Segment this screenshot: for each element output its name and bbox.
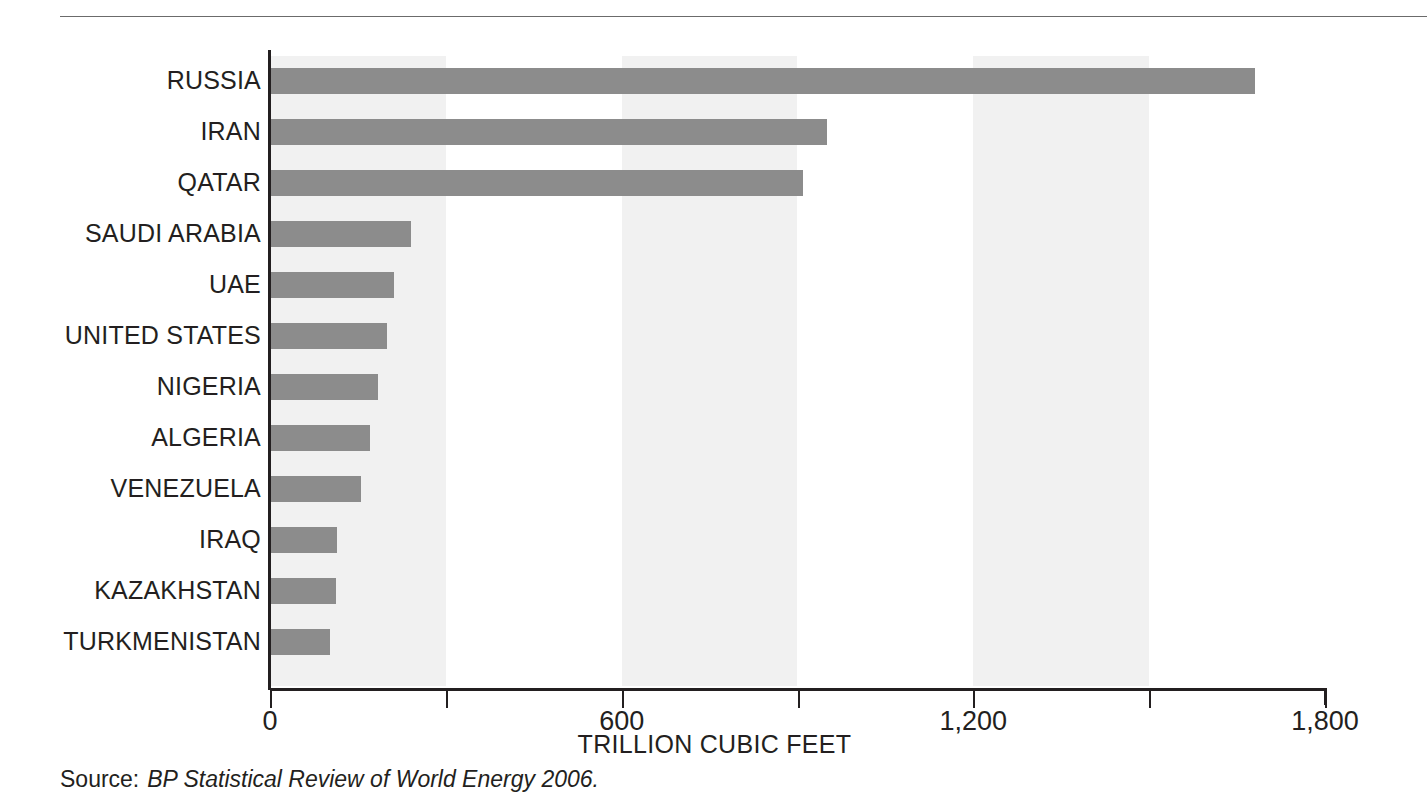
bar xyxy=(270,578,336,604)
bar xyxy=(270,68,1255,94)
bar xyxy=(270,374,378,400)
background-band xyxy=(622,56,798,686)
bar xyxy=(270,221,411,247)
bar xyxy=(270,476,361,502)
category-label: VENEZUELA xyxy=(0,474,261,503)
bar xyxy=(270,272,394,298)
category-label: NIGERIA xyxy=(0,372,261,401)
y-axis-line xyxy=(268,50,271,690)
bar xyxy=(270,119,827,145)
category-label: IRAQ xyxy=(0,525,261,554)
x-axis-title: TRILLION CUBIC FEET xyxy=(0,730,1427,759)
category-label: KAZAKHSTAN xyxy=(0,576,261,605)
category-label: ALGERIA xyxy=(0,423,261,452)
bar xyxy=(270,170,803,196)
category-label: RUSSIA xyxy=(0,66,261,95)
x-axis-minor-tick xyxy=(446,691,448,708)
background-band xyxy=(973,56,1149,686)
bar xyxy=(270,425,370,451)
source-note: Source:BP Statistical Review of World En… xyxy=(60,766,599,793)
source-label: Source: xyxy=(60,766,139,792)
category-label: UAE xyxy=(0,270,261,299)
category-label: UNITED STATES xyxy=(0,321,261,350)
bar xyxy=(270,629,330,655)
source-citation: BP Statistical Review of World Energy 20… xyxy=(147,766,599,792)
x-axis-title-text: TRILLION CUBIC FEET xyxy=(578,730,852,758)
x-axis-minor-tick xyxy=(1149,691,1151,708)
category-label: IRAN xyxy=(0,117,261,146)
category-label: SAUDI ARABIA xyxy=(0,219,261,248)
category-label: TURKMENISTAN xyxy=(0,627,261,656)
bar xyxy=(270,323,387,349)
bar xyxy=(270,527,337,553)
x-axis-minor-tick xyxy=(798,691,800,708)
top-divider-rule xyxy=(60,16,1427,17)
category-label: QATAR xyxy=(0,168,261,197)
chart-plot-area xyxy=(270,56,1325,686)
